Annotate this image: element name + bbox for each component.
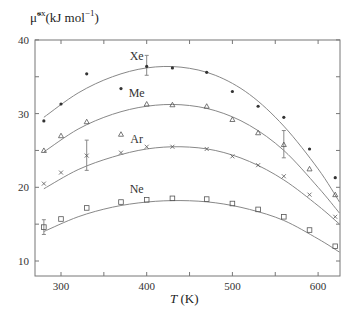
cross-marker-icon	[308, 193, 312, 197]
asterisk-marker-icon	[85, 72, 88, 75]
x-tick-label: 400	[138, 280, 155, 292]
cross-marker-icon	[119, 151, 123, 155]
square-marker-icon	[204, 197, 209, 202]
fit-curve-xe	[44, 66, 340, 202]
plot-border	[35, 40, 340, 276]
x-tick-label: 500	[224, 280, 241, 292]
axis-ticks: 30040050060010203040	[18, 34, 340, 292]
cross-marker-icon	[42, 182, 46, 186]
asterisk-marker-icon	[171, 66, 174, 69]
series-label-ar: Ar	[130, 132, 143, 146]
asterisk-marker-icon	[59, 102, 62, 105]
cross-marker-icon	[59, 171, 63, 175]
x-tick-label: 300	[53, 280, 70, 292]
asterisk-marker-icon	[257, 105, 260, 108]
y-tick-label: 20	[18, 181, 30, 193]
data-markers	[41, 65, 337, 249]
error-bars	[42, 55, 286, 234]
series-label-me: Me	[129, 86, 145, 100]
square-marker-icon	[84, 206, 89, 211]
square-marker-icon	[59, 217, 64, 222]
asterisk-marker-icon	[205, 71, 208, 74]
asterisk-marker-icon	[308, 147, 311, 150]
square-marker-icon	[170, 196, 175, 201]
fit-curve-ar	[44, 147, 340, 224]
x-axis-title: T (K)	[170, 291, 199, 306]
asterisk-marker-icon	[42, 119, 45, 122]
x-tick-label: 600	[310, 280, 327, 292]
series-label-xe: Xe	[130, 49, 144, 63]
cross-marker-icon	[282, 174, 286, 178]
triangle-marker-icon	[307, 166, 312, 171]
square-marker-icon	[119, 200, 124, 205]
triangle-marker-icon	[144, 102, 149, 107]
y-tick-label: 40	[18, 34, 30, 46]
square-marker-icon	[282, 214, 287, 219]
asterisk-marker-icon	[334, 176, 337, 179]
fit-curve-me	[44, 104, 340, 213]
plot-frame	[35, 40, 340, 276]
y-axis-title: μ̃ex(kJ mol−1)	[30, 8, 99, 25]
cross-marker-icon	[145, 145, 149, 149]
chart-canvas: 30040050060010203040 XeMeArNe μ̃ex(kJ mo…	[0, 0, 356, 321]
triangle-marker-icon	[256, 130, 261, 135]
triangle-marker-icon	[84, 119, 89, 124]
triangle-marker-icon	[59, 133, 64, 138]
asterisk-marker-icon	[282, 116, 285, 119]
asterisk-marker-icon	[231, 90, 234, 93]
y-tick-label: 30	[18, 108, 30, 120]
asterisk-marker-icon	[119, 87, 122, 90]
triangle-marker-icon	[204, 104, 209, 109]
asterisk-marker-icon	[145, 65, 148, 68]
fit-curve-ne	[44, 201, 340, 253]
fit-curves	[44, 66, 340, 252]
series-label-ne: Ne	[130, 182, 144, 196]
triangle-marker-icon	[118, 132, 123, 137]
y-tick-label: 10	[18, 255, 30, 267]
square-marker-icon	[307, 228, 312, 233]
cross-marker-icon	[333, 215, 337, 219]
